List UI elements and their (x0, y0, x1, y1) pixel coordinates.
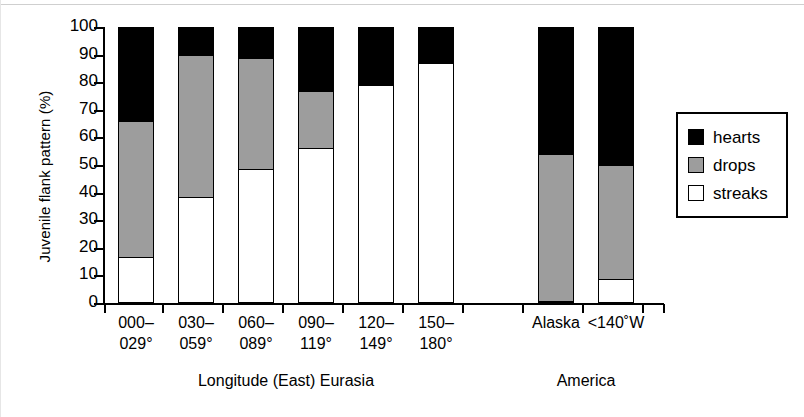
legend: heartsdropsstreaks (676, 112, 788, 218)
legend-item-drops[interactable]: drops (688, 151, 776, 179)
bar-segment-hearts (599, 28, 633, 165)
bar-segment-hearts (299, 28, 333, 91)
y-tick-label: 60 (50, 126, 98, 145)
bar-segment-drops (119, 121, 153, 258)
x-axis-spine (103, 303, 664, 305)
bar-segment-drops (539, 154, 573, 302)
x-category-label: <140˚W (556, 312, 676, 333)
bar-segment-hearts (359, 28, 393, 86)
stacked-bar[interactable] (238, 27, 274, 303)
legend-label: streaks (713, 184, 768, 203)
bar-segment-streaks (239, 170, 273, 302)
bar-segment-drops (599, 165, 633, 280)
legend-item-hearts[interactable]: hearts (688, 123, 776, 151)
bar-segment-streaks (119, 258, 153, 302)
y-tick-label: 30 (50, 209, 98, 228)
bar-segment-streaks (599, 280, 633, 302)
stacked-bar[interactable] (538, 27, 574, 303)
y-axis-spine (103, 27, 105, 304)
figure-canvas: Juvenile flank pattern (%) 0102030405060… (0, 0, 804, 417)
x-group-label: America (446, 372, 726, 390)
legend-swatch-hearts-icon (688, 129, 704, 145)
y-tick-label: 0 (50, 292, 98, 311)
bar-segment-drops (239, 58, 273, 170)
y-tick-label: 90 (50, 44, 98, 63)
bar-segment-hearts (179, 28, 213, 55)
scan-top-rule (0, 4, 804, 5)
y-tick-label: 50 (50, 154, 98, 173)
bar-segment-streaks (419, 64, 453, 302)
bar-segment-hearts (539, 28, 573, 154)
stacked-bar[interactable] (418, 27, 454, 303)
bar-segment-hearts (419, 28, 453, 64)
y-tick-label: 10 (50, 264, 98, 283)
bar-segment-streaks (299, 149, 333, 302)
legend-item-streaks[interactable]: streaks (688, 179, 776, 207)
y-tick-label: 100 (50, 16, 98, 35)
x-group-label: Longitude (East) Eurasia (146, 372, 426, 390)
bar-segment-streaks (359, 86, 393, 302)
y-tick-label: 80 (50, 71, 98, 90)
y-tick-label: 20 (50, 237, 98, 256)
stacked-bar[interactable] (298, 27, 334, 303)
scan-left-rule (0, 0, 1, 417)
legend-label: hearts (713, 128, 760, 147)
legend-label: drops (713, 156, 756, 175)
stacked-bar[interactable] (178, 27, 214, 303)
y-tick-label: 70 (50, 99, 98, 118)
stacked-bar[interactable] (118, 27, 154, 303)
plot-area: 0102030405060708090100 (104, 27, 664, 303)
legend-swatch-drops-icon (688, 157, 704, 173)
stacked-bar[interactable] (358, 27, 394, 303)
y-tick-label: 40 (50, 182, 98, 201)
bar-segment-hearts (239, 28, 273, 58)
x-category-label: 150– 180° (398, 312, 474, 354)
bar-segment-drops (299, 91, 333, 149)
legend-swatch-streaks-icon (688, 185, 704, 201)
stacked-bar[interactable] (598, 27, 634, 303)
bar-segment-hearts (119, 28, 153, 121)
bar-segment-streaks (179, 198, 213, 302)
bar-segment-drops (179, 55, 213, 197)
